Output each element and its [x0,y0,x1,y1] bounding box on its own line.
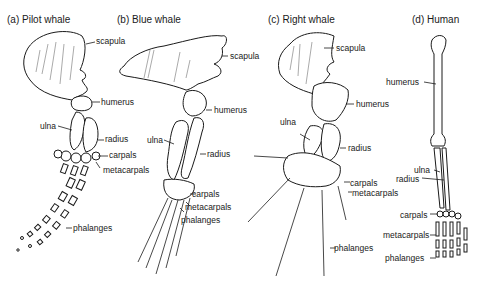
right-ulna-label: ulna [280,118,296,127]
pilot-whale-skeleton [17,32,108,252]
human-metacarpals-label: metacarpals [383,231,429,240]
right-whale-skeleton [248,33,354,276]
panel-title-blue-whale: (b) Blue whale [117,14,181,25]
pilot-scapula [24,32,88,100]
pilot-humerus-label: humerus [101,98,134,107]
right-humerus [312,83,348,122]
pilot-humerus [71,96,92,111]
pilot-ulna-label: ulna [40,122,56,131]
pilot-phalanges-label: phalanges [73,224,112,233]
panel-title-right-whale: (c) Right whale [268,14,335,25]
human-skeleton [422,36,467,259]
blue-metacarpals-label: metacarpals [185,203,231,212]
human-carpals-label: carpals [400,211,427,220]
blue-carpals [164,179,195,200]
forelimb-drawings [0,0,484,294]
human-humerus-label: humerus [386,78,419,87]
blue-phalanges [138,198,190,274]
pilot-radius [83,118,98,152]
right-phalanges-label: phalanges [334,244,373,253]
right-radius [321,124,340,162]
pilot-scapula-label: scapula [96,37,125,46]
blue-phalanges-label: phalanges [181,216,220,225]
pilot-radius-label: radius [105,135,128,144]
pilot-metacarpals-label: metacarpals [103,166,149,175]
blue-ulna-label: ulna [147,136,163,145]
blue-scapula-label: scapula [230,52,259,61]
pilot-carpals [54,150,100,163]
pilot-carpals-label: carpals [109,151,136,160]
human-radius-label: radius [396,175,419,184]
panel-title-human: (d) Human [412,14,459,25]
blue-humerus [183,90,206,116]
right-metacarpals-label: metacarpals [352,189,398,198]
panel-title-pilot-whale: (a) Pilot whale [7,14,70,25]
blue-humerus-label: humerus [214,106,247,115]
human-phalanges-label: phalanges [385,254,424,263]
right-scapula-label: scapula [336,44,365,53]
pilot-ulna [70,112,85,150]
blue-scapula [120,36,227,90]
right-radius-label: radius [348,144,371,153]
right-humerus-label: humerus [356,100,389,109]
blue-radius-label: radius [207,150,230,159]
blue-carpals-label: carpals [192,190,219,199]
human-hand [436,211,467,257]
pilot-phalanges [17,164,88,252]
right-carpals-label: carpals [350,179,377,188]
human-humerus [431,36,446,147]
